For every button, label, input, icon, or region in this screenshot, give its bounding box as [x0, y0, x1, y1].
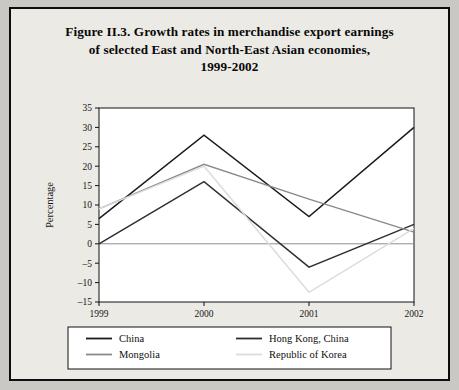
chart-legend: ChinaHong Kong, ChinaMongoliaRepublic of…: [68, 327, 391, 369]
x-tick-label: 2000: [195, 309, 214, 319]
legend-label-hong-kong-china: Hong Kong, China: [269, 333, 349, 344]
y-tick-label: 25: [83, 142, 93, 152]
x-tick-label: 1999: [90, 309, 109, 319]
figure-frame: Figure II.3. Growth rates in merchandise…: [9, 7, 450, 381]
line-chart: –15–10–505101520253035 1999200020012002 …: [11, 87, 448, 379]
y-tick-label: 35: [83, 103, 93, 113]
y-tick-label: –10: [77, 278, 93, 288]
y-tick-label: 15: [83, 181, 93, 191]
y-tick-label: –5: [82, 259, 93, 269]
y-tick-label: 10: [83, 200, 93, 210]
y-axis-label: Percentage: [44, 182, 55, 228]
plot-frame: [99, 108, 414, 302]
y-axis-tick-labels: –15–10–505101520253035: [77, 103, 93, 307]
figure-title-line-1: Figure II.3. Growth rates in merchandise…: [65, 24, 393, 39]
y-tick-label: –15: [77, 297, 93, 307]
y-axis-title: Percentage: [44, 182, 55, 228]
figure-title-line-2: of selected East and North-East Asian ec…: [89, 42, 370, 57]
y-tick-label: 30: [83, 123, 93, 133]
legend-label-republic-of-korea: Republic of Korea: [269, 349, 347, 360]
figure-title: Figure II.3. Growth rates in merchandise…: [11, 9, 448, 76]
y-tick-label: 20: [83, 162, 93, 172]
x-axis-tick-labels: 1999200020012002: [90, 309, 424, 319]
legend-label-mongolia: Mongolia: [119, 349, 160, 360]
y-tick-label: 5: [87, 220, 92, 230]
chart-area: –15–10–505101520253035 1999200020012002 …: [11, 87, 448, 379]
y-tick-label: 0: [87, 239, 92, 249]
legend-label-china: China: [119, 333, 144, 344]
figure-title-line-3: 1999-2002: [200, 59, 258, 74]
x-tick-label: 2002: [405, 309, 424, 319]
x-tick-label: 2001: [300, 309, 319, 319]
